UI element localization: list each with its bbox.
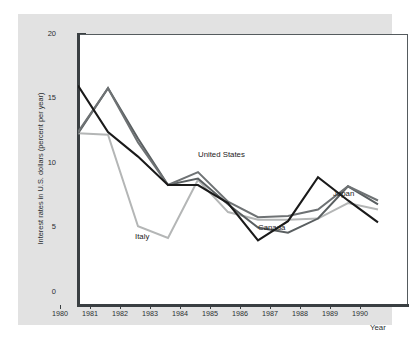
y-tick-label: 5	[32, 222, 56, 231]
x-tick-label: 1982	[105, 309, 135, 318]
y-tick-label: 20	[32, 29, 56, 38]
y-tick-label: 10	[32, 158, 56, 167]
x-tick-label: 1983	[135, 309, 165, 318]
x-tick-label: 1984	[165, 309, 195, 318]
x-tick-mark	[180, 305, 181, 309]
y-tick-label: 0	[32, 287, 56, 296]
chart-figure: Interest rates in U.S. dollars (percent …	[0, 0, 410, 347]
x-tick-label: 1986	[225, 309, 255, 318]
x-tick-label: 1990	[345, 309, 375, 318]
x-tick-mark	[360, 305, 361, 309]
y-tick-label: 15	[32, 93, 56, 102]
x-tick-mark	[120, 305, 121, 309]
x-tick-label: 1985	[195, 309, 225, 318]
x-tick-mark	[60, 305, 61, 309]
x-axis-label: Year	[370, 323, 386, 332]
x-tick-label: 1981	[75, 309, 105, 318]
series-label-united-states: United States	[198, 150, 245, 159]
x-tick-mark	[270, 305, 271, 309]
x-tick-mark	[240, 305, 241, 309]
series-line-japan	[78, 86, 378, 241]
x-tick-mark	[90, 305, 91, 309]
x-tick-mark	[330, 305, 331, 309]
series-lines	[78, 34, 408, 305]
x-tick-mark	[300, 305, 301, 309]
figure-panel: Interest rates in U.S. dollars (percent …	[18, 14, 392, 325]
x-tick-label: 1980	[45, 309, 75, 318]
x-tick-label: 1989	[315, 309, 345, 318]
x-tick-label: 1987	[255, 309, 285, 318]
series-label-italy: Italy	[135, 232, 149, 241]
x-tick-label: 1988	[285, 309, 315, 318]
series-label-japan: Japan	[333, 189, 354, 198]
x-tick-mark	[150, 305, 151, 309]
series-label-canada: Canada	[258, 223, 285, 232]
x-tick-mark	[210, 305, 211, 309]
